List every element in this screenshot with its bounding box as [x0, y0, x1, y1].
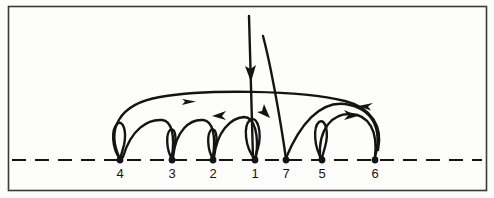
- node-dot-1: [252, 157, 259, 164]
- node-dot-5: [319, 157, 326, 164]
- figure-border: [9, 7, 487, 191]
- node-label-3: 3: [168, 166, 175, 181]
- node-dot-7: [283, 157, 290, 164]
- node-dot-3: [169, 157, 176, 164]
- diagram-canvas: [0, 0, 494, 198]
- node-label-1: 1: [251, 166, 258, 181]
- node-dot-2: [210, 157, 217, 164]
- node-label-4: 4: [116, 166, 123, 181]
- node-dot-4: [117, 157, 124, 164]
- node-dot-6: [372, 157, 379, 164]
- node-label-2: 2: [209, 166, 216, 181]
- node-label-6: 6: [371, 166, 378, 181]
- arc-diagram-figure: 4 3 2 1 7 5 6: [0, 0, 494, 198]
- node-label-7: 7: [282, 166, 289, 181]
- node-label-5: 5: [318, 166, 325, 181]
